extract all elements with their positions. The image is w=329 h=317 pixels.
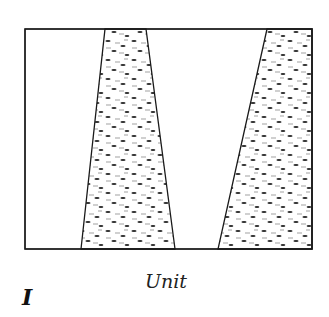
unit-caption: Unit: [0, 270, 329, 292]
diagram-figure: Unit I: [0, 0, 329, 317]
panel-label: I: [22, 284, 32, 310]
